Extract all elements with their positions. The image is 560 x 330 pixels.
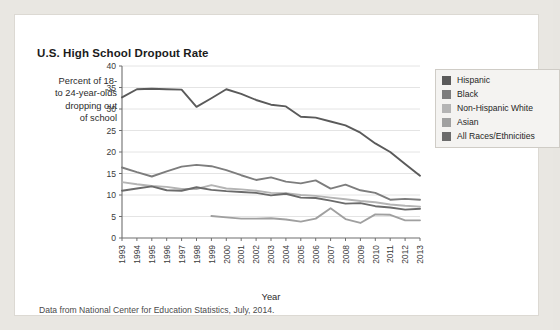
x-axis-tick-label: 2002 [251,245,261,264]
x-axis-tick-label: 1993 [117,245,127,264]
x-axis-tick-label: 2010 [371,245,381,264]
x-axis-tick-label: 2008 [341,245,351,264]
y-axis-tick-label: 30 [106,104,116,114]
series-line [211,208,420,223]
y-axis-tick-label: 35 [106,83,116,93]
x-axis-tick-label: 1996 [162,245,172,264]
x-axis-tick-label: 2011 [385,245,395,263]
x-axis-title: Year [262,291,281,302]
x-axis-tick-label: 2012 [400,245,410,264]
x-axis-tick-label: 2009 [356,245,366,264]
x-axis-tick-label: 2013 [415,245,425,264]
y-axis-tick-label: 15 [106,169,116,179]
x-axis-tick-label: 1994 [132,245,142,264]
x-axis-tick-label: 2000 [222,245,232,264]
series-line [122,186,420,209]
x-axis-tick-label: 2003 [266,245,276,264]
y-axis-tick-label: 5 [111,212,116,222]
x-axis-tick-label: 2005 [296,245,306,264]
x-axis-tick-label: 2004 [281,245,291,264]
x-axis-tick-label: 2006 [311,245,321,264]
y-axis-tick-label: 40 [106,61,116,71]
y-axis-tick-label: 25 [106,126,116,136]
y-axis-tick-label: 20 [106,147,116,157]
y-axis-tick-label: 10 [106,190,116,200]
x-axis-tick-label: 2001 [236,245,246,264]
x-axis-tick-label: 1995 [147,245,157,264]
x-axis-tick-label: 1999 [207,245,217,264]
y-axis-tick-label: 0 [111,233,116,243]
series-line [122,89,420,176]
x-axis-tick-label: 1998 [192,245,202,264]
series-line [122,182,420,207]
x-axis-tick-label: 2007 [326,245,336,264]
x-axis-tick-label: 1997 [177,245,187,264]
